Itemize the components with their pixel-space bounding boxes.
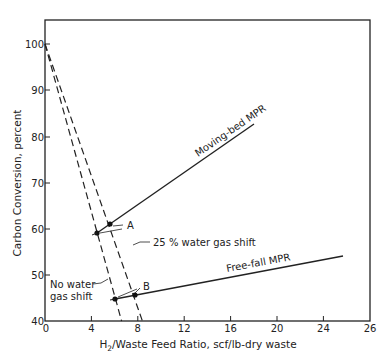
label-no-water-line1: No water: [50, 279, 96, 290]
x-tick-0: 0: [43, 323, 49, 334]
x-tick-26: 26: [364, 323, 377, 334]
y-tick-100: 100: [25, 39, 44, 50]
x-tick-labels: 0 4 8 12 16 20 24 26: [43, 323, 377, 334]
label-25pct-water-gas-shift: 25 % water gas shift: [153, 237, 256, 248]
x-tick-12: 12: [178, 323, 191, 334]
x-tick-4: 4: [88, 323, 94, 334]
label-moving-bed-mpr: Moving-bed MPR: [193, 102, 268, 158]
label-no-water-line2: gas shift: [50, 291, 93, 302]
y-tick-50: 50: [31, 270, 44, 281]
label-b: B: [143, 281, 150, 292]
series-moving-bed-mpr: [97, 124, 254, 233]
x-tick-20: 20: [271, 323, 284, 334]
y-tick-labels: 100 90 80 70 60 50 40: [25, 39, 44, 327]
y-axis-label: Carbon Conversion, percent: [11, 110, 23, 257]
y-tick-70: 70: [31, 178, 44, 189]
y-tick-90: 90: [31, 85, 44, 96]
y-ticks: [45, 44, 50, 275]
carbon-conversion-chart: 100 90 80 70 60 50 40 0 4 8 12 16 20 24 …: [0, 0, 391, 363]
label-a: A: [127, 220, 134, 231]
point-b-upper: [132, 292, 137, 297]
x-tick-24: 24: [317, 323, 330, 334]
y-tick-60: 60: [31, 224, 44, 235]
leader-25pct: [133, 242, 150, 245]
x-ticks: [91, 316, 323, 321]
x-tick-8: 8: [135, 323, 141, 334]
label-free-fall-mpr: Free-fall MPR: [225, 251, 291, 274]
x-tick-16: 16: [224, 323, 237, 334]
y-tick-80: 80: [31, 132, 44, 143]
plot-frame: [45, 20, 370, 321]
x-axis-label: H2/Waste Feed Ratio, scf/lb-dry waste: [99, 338, 296, 353]
point-a-upper: [107, 221, 112, 226]
data-points: [94, 221, 137, 301]
